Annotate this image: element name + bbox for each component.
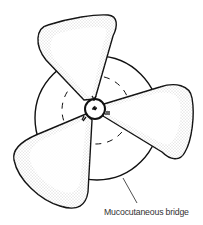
mucocutaneous-bridge-label: Mucocutaneous bridge	[104, 206, 189, 217]
flap-bottom-left	[14, 114, 92, 208]
label-leader-line	[123, 178, 137, 203]
diagram-figure	[0, 0, 203, 225]
